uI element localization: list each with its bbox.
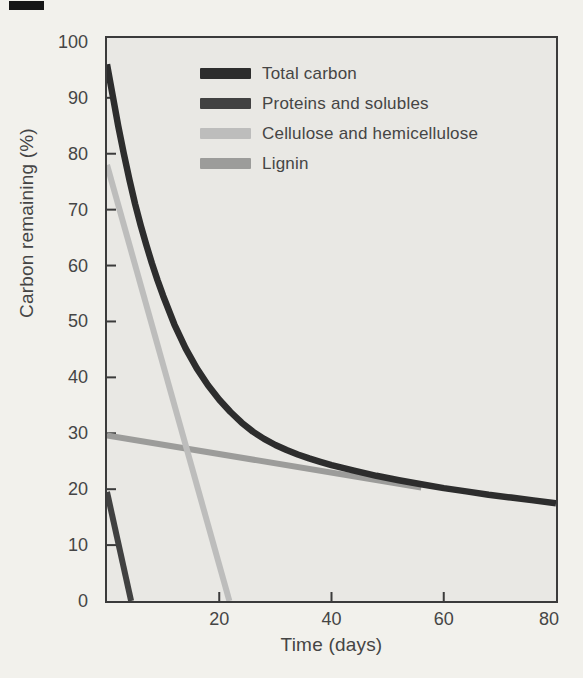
legend-label: Cellulose and hemicellulose xyxy=(262,125,478,142)
x-tick-label: 20 xyxy=(209,608,229,630)
legend-label: Lignin xyxy=(262,155,309,172)
x-tick-labels: 20406080 xyxy=(107,608,556,632)
y-tick-label: 100 xyxy=(8,31,88,53)
legend-label: Total carbon xyxy=(262,65,357,82)
y-tick-label: 30 xyxy=(8,422,88,444)
x-tick-label: 60 xyxy=(434,608,454,630)
y-tick-label: 40 xyxy=(8,366,88,388)
y-tick-label: 80 xyxy=(8,143,88,165)
legend-item: Cellulose and hemicellulose xyxy=(200,118,478,148)
figure-page: Carbon remaining (%) Total carbonProtein… xyxy=(0,0,583,678)
legend-swatch xyxy=(200,68,251,79)
legend-swatch xyxy=(200,158,251,169)
y-tick-label: 50 xyxy=(8,310,88,332)
y-tick-label: 60 xyxy=(8,255,88,277)
series-line-lignin xyxy=(107,436,421,488)
y-tick-label: 20 xyxy=(8,478,88,500)
legend-label: Proteins and solubles xyxy=(262,95,429,112)
x-tick-label: 80 xyxy=(539,608,559,630)
legend-swatch xyxy=(200,98,251,109)
x-tick-label: 40 xyxy=(321,608,341,630)
legend-swatch xyxy=(200,128,251,139)
y-tick-label: 0 xyxy=(8,590,88,612)
y-tick-label: 70 xyxy=(8,199,88,221)
y-tick-labels: 0102030405060708090100 xyxy=(0,0,97,678)
y-tick-label: 90 xyxy=(8,87,88,109)
legend-item: Proteins and solubles xyxy=(200,88,478,118)
legend: Total carbonProteins and solublesCellulo… xyxy=(200,58,478,178)
series-line-cellulose-and-hemicellulose xyxy=(107,165,229,601)
plot-area: Total carbonProteins and solublesCellulo… xyxy=(105,36,558,603)
y-tick-label: 10 xyxy=(8,534,88,556)
series-line-proteins-and-solubles xyxy=(107,492,131,601)
legend-item: Lignin xyxy=(200,148,478,178)
x-axis-title: Time (days) xyxy=(107,634,556,656)
legend-item: Total carbon xyxy=(200,58,478,88)
